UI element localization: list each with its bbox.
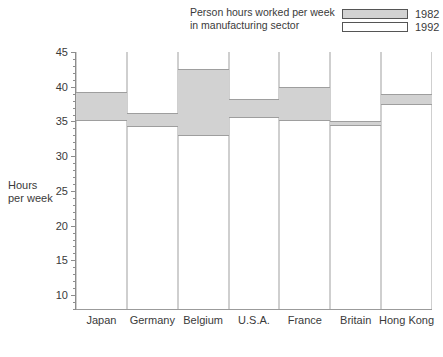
bar-band-1982-1992 bbox=[229, 99, 280, 118]
bar-group bbox=[76, 52, 432, 309]
x-axis-label: France bbox=[288, 314, 322, 326]
bar-band-1982-1992 bbox=[330, 121, 381, 125]
x-axis-labels: JapanGermanyBelgiumU.S.A.FranceBritainHo… bbox=[76, 314, 432, 334]
y-tick-label: 35 bbox=[56, 115, 68, 127]
x-axis-label: Britain bbox=[340, 314, 371, 326]
legend-swatch-1992 bbox=[342, 22, 408, 32]
y-tick-label: 40 bbox=[56, 81, 68, 93]
legend-label-1992: 1992 bbox=[415, 21, 439, 33]
x-axis-line bbox=[75, 309, 432, 310]
x-axis-label: Japan bbox=[86, 314, 116, 326]
bar-column bbox=[330, 52, 381, 309]
y-axis-title: Hours per week bbox=[8, 179, 53, 205]
y-tick-label: 45 bbox=[56, 46, 68, 58]
bar-column bbox=[76, 52, 127, 309]
legend-swatch-1982 bbox=[342, 9, 408, 19]
y-tick-label: 20 bbox=[56, 220, 68, 232]
y-tick-label: 10 bbox=[56, 289, 68, 301]
y-axis-title-line1: Hours bbox=[8, 179, 53, 192]
legend-entry-1992: 1992 bbox=[342, 20, 439, 33]
legend-entry-1982: 1982 bbox=[342, 7, 439, 20]
bar-column bbox=[229, 52, 280, 309]
chart-legend: Person hours worked per week in manufact… bbox=[190, 6, 440, 38]
bar-band-1982-1992 bbox=[178, 69, 229, 136]
bar-column bbox=[127, 52, 178, 309]
legend-caption: Person hours worked per week in manufact… bbox=[190, 6, 342, 32]
y-tick-label: 15 bbox=[56, 254, 68, 266]
y-axis-title-line2: per week bbox=[8, 192, 53, 205]
bar-column bbox=[178, 52, 229, 309]
x-axis-label: Hong Kong bbox=[379, 314, 434, 326]
legend-entries: 1982 1992 bbox=[342, 7, 439, 33]
bar-band-1982-1992 bbox=[76, 92, 127, 121]
legend-caption-line1: Person hours worked per week bbox=[190, 6, 342, 19]
bar-band-1982-1992 bbox=[127, 113, 178, 127]
bar-column bbox=[381, 52, 432, 309]
bar-column bbox=[279, 52, 330, 309]
legend-label-1982: 1982 bbox=[415, 8, 439, 20]
y-tick-label: 30 bbox=[56, 150, 68, 162]
y-tick-minor bbox=[73, 309, 76, 310]
bar-band-1982-1992 bbox=[381, 94, 432, 106]
x-axis-label: Germany bbox=[130, 314, 175, 326]
bar-band-1982-1992 bbox=[279, 87, 330, 121]
chart-container: Person hours worked per week in manufact… bbox=[0, 0, 443, 357]
plot-area: 1015202530354045 bbox=[76, 52, 432, 309]
y-tick-label: 25 bbox=[56, 185, 68, 197]
x-axis-label: U.S.A. bbox=[238, 314, 270, 326]
x-axis-label: Belgium bbox=[183, 314, 223, 326]
legend-caption-line2: in manufacturing sector bbox=[190, 19, 342, 32]
